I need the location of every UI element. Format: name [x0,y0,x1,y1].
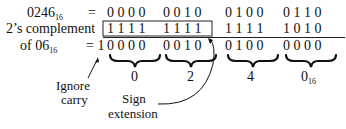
hex-digit-3: 4 [247,69,254,84]
hex-digit-2: 2 [187,69,194,84]
brace-4 [286,55,336,67]
row1-group-3: 0 1 0 0 [225,5,264,20]
row1-label: 024616 [27,5,63,22]
hex-digit-1: 0 [131,69,138,84]
row1-group-2: 0 0 1 0 [163,5,202,20]
sign-extension-label-1: Sign [122,91,146,106]
row2-label: 2’s complement [6,21,95,36]
brace-2 [166,55,216,67]
row1-group-1: 0 0 0 0 [107,5,146,20]
twos-complement-diagram: 024616 = 2’s complement of 0616 = 1 0 0 … [0,0,346,129]
hex-digit-4: 016 [301,69,316,86]
row3-label: of 0616 [20,38,57,55]
row2-group-2: 1 1 1 1 [163,21,202,36]
row2-group-4: 1 0 1 0 [283,21,322,36]
sign-extension-label-2: extension [108,106,158,121]
row3-group-1: 0 0 0 0 [107,38,146,53]
row1-group-4: 0 1 1 0 [283,5,322,20]
row3-group-3: 0 1 0 0 [225,38,264,53]
row2-group-3: 1 1 1 1 [225,21,264,36]
ignore-carry-label-2: carry [61,92,88,107]
row1-equals: = [88,5,96,20]
brace-3 [228,55,278,67]
ignore-carry-arrowhead [95,57,99,63]
row3-group-2: 0 0 1 0 [163,38,202,53]
row2-group-1: 1 1 1 1 [107,21,146,36]
row3-group-4: 0 0 0 0 [283,38,322,53]
brace-1 [110,55,160,67]
ignore-carry-label-1: Ignore [56,78,90,93]
row3-equals-carry: = 1 [86,38,104,53]
